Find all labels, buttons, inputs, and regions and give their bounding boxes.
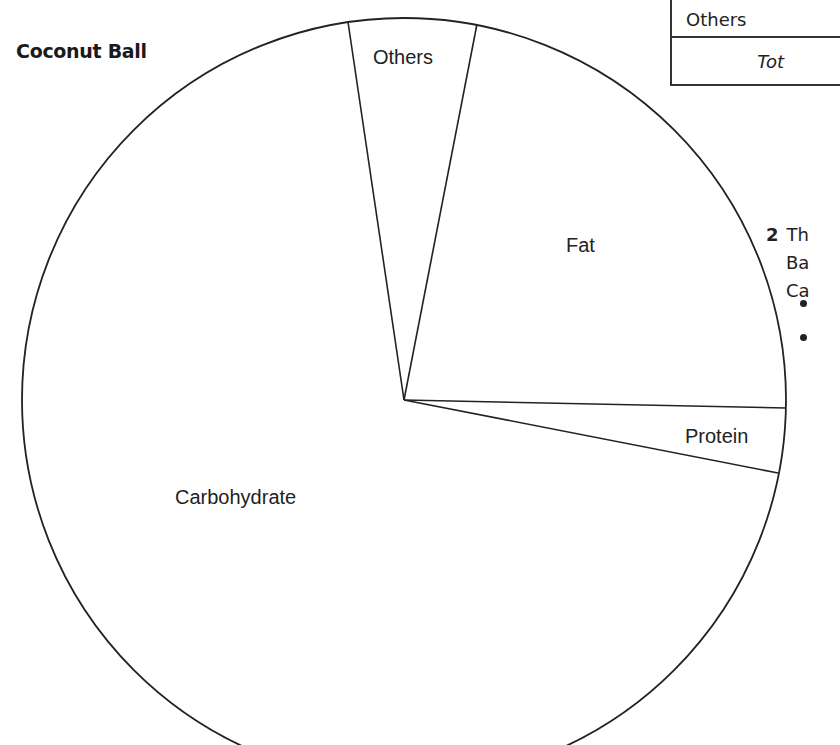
bullet-icon	[800, 300, 807, 307]
table-cell-others: Others	[671, 0, 840, 37]
slice-label-protein: Protein	[685, 425, 748, 447]
question-first-line: 2Th	[766, 221, 810, 249]
nutrient-table: Others Tot	[670, 0, 840, 86]
table-total-label: Tot	[757, 51, 784, 72]
bullet-icon	[800, 334, 807, 341]
question-text-line-1: Th	[787, 224, 809, 245]
question-text-line-2: Ba	[766, 249, 810, 277]
question-number: 2	[766, 224, 779, 245]
table-row: Tot	[671, 37, 840, 85]
pie-outline	[22, 18, 786, 745]
table-row: Others	[671, 0, 840, 37]
table-cell-total: Tot	[671, 37, 840, 85]
slice-label-carbohydrate: Carbohydrate	[175, 486, 296, 508]
slice-label-fat: Fat	[566, 234, 595, 256]
slice-label-others: Others	[373, 46, 433, 68]
question-2: 2Th Ba Ca	[766, 221, 810, 305]
